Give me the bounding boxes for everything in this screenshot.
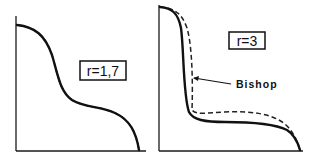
left-bishop-curve xyxy=(17,25,139,150)
left-r-label: r=1,7 xyxy=(87,63,120,79)
bishop-arrow-head-icon xyxy=(193,76,199,81)
left-solid-curve xyxy=(17,25,139,150)
right-panel: r=3 Bishop xyxy=(159,5,303,151)
left-panel: r=1,7 xyxy=(16,16,146,151)
figure: r=1,7 r=3 Bishop xyxy=(0,0,317,163)
right-r-label: r=3 xyxy=(237,33,258,49)
bishop-arrow-line xyxy=(194,78,231,84)
bishop-label: Bishop xyxy=(236,78,278,90)
right-solid-curve xyxy=(160,7,300,150)
